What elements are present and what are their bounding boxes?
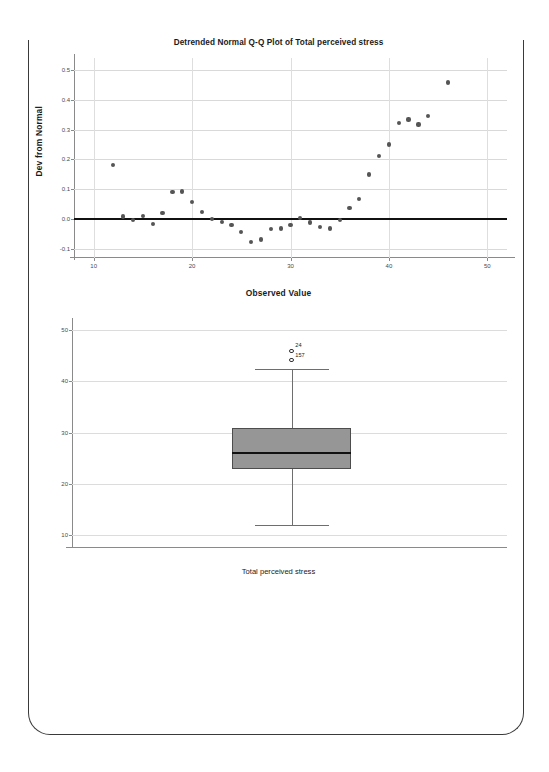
qq-y-tick-mark bbox=[71, 249, 74, 250]
qq-data-point bbox=[239, 230, 243, 234]
qq-data-point bbox=[170, 190, 174, 194]
qq-data-point bbox=[318, 225, 322, 229]
qq-x-tick-label: 10 bbox=[90, 263, 97, 269]
qq-x-axis-line bbox=[70, 257, 515, 258]
qq-x-tick-mark bbox=[487, 258, 488, 261]
boxplot-plot-area: 102030405024157 bbox=[72, 320, 507, 548]
boxplot-y-tick-label: 10 bbox=[61, 532, 68, 538]
qq-reference-line bbox=[74, 218, 507, 220]
qq-data-point bbox=[220, 220, 224, 224]
qq-y-tick-label: 0.1 bbox=[62, 186, 70, 192]
qq-data-point bbox=[131, 218, 135, 222]
qq-data-point bbox=[406, 117, 410, 121]
boxplot-y-tick-label: 30 bbox=[61, 430, 68, 436]
qq-y-tick-label: 0.5 bbox=[62, 67, 70, 73]
boxplot-outlier-point bbox=[289, 349, 293, 353]
boxplot-outlier-point bbox=[289, 358, 293, 362]
boxplot-y-tick-mark bbox=[69, 330, 72, 331]
qq-y-tick-label: 0.4 bbox=[62, 97, 70, 103]
boxplot-x-axis-label: Total perceived stress bbox=[36, 567, 521, 576]
boxplot-x-axis-line bbox=[66, 547, 507, 548]
boxplot-y-tick-label: 40 bbox=[61, 378, 68, 384]
qq-x-tick-label: 30 bbox=[287, 263, 294, 269]
qq-data-point bbox=[229, 223, 233, 227]
qq-x-tick-label: 20 bbox=[189, 263, 196, 269]
qq-data-point bbox=[180, 189, 184, 193]
qq-y-tick-mark bbox=[71, 159, 74, 160]
qq-y-tick-mark bbox=[71, 100, 74, 101]
qq-data-point bbox=[377, 154, 381, 158]
qq-data-point bbox=[387, 142, 391, 146]
qq-x-axis-label: Observed Value bbox=[36, 288, 521, 298]
qq-data-point bbox=[160, 211, 164, 215]
qq-x-tick-label: 40 bbox=[386, 263, 393, 269]
boxplot-y-tick-mark bbox=[69, 535, 72, 536]
qq-y-tick-mark bbox=[71, 130, 74, 131]
qq-data-point bbox=[397, 121, 401, 125]
boxplot-box bbox=[232, 428, 352, 469]
qq-chart-title: Detrended Normal Q-Q Plot of Total perce… bbox=[36, 38, 521, 47]
qq-data-point bbox=[338, 218, 342, 222]
qq-x-tick-mark bbox=[389, 258, 390, 261]
qq-data-point bbox=[190, 200, 194, 204]
qq-gridline-vertical bbox=[94, 58, 95, 258]
qq-gridline-vertical bbox=[389, 58, 390, 258]
detrended-qq-chart: Detrended Normal Q-Q Plot of Total perce… bbox=[36, 36, 521, 298]
qq-plot-area: -0.10.00.10.20.30.40.51020304050 bbox=[74, 58, 507, 258]
boxplot-gridline-horizontal bbox=[72, 330, 507, 331]
qq-x-tick-label: 50 bbox=[484, 263, 491, 269]
qq-data-point bbox=[308, 220, 312, 224]
qq-data-point bbox=[416, 122, 420, 126]
qq-data-point bbox=[367, 172, 371, 176]
qq-y-axis-label: Dev from Normal bbox=[34, 106, 48, 176]
qq-x-tick-mark bbox=[94, 258, 95, 261]
qq-y-tick-mark bbox=[71, 70, 74, 71]
qq-data-point bbox=[269, 227, 273, 231]
boxplot-gridline-horizontal bbox=[72, 381, 507, 382]
boxplot-y-tick-mark bbox=[69, 381, 72, 382]
qq-data-point bbox=[426, 114, 430, 118]
qq-x-tick-mark bbox=[291, 258, 292, 261]
boxplot-lower-whisker-cap bbox=[255, 525, 329, 526]
qq-y-tick-label: 0.3 bbox=[62, 127, 70, 133]
boxplot-outlier-label: 24 bbox=[295, 342, 301, 348]
boxplot-upper-whisker-cap bbox=[255, 369, 329, 370]
qq-data-point bbox=[111, 163, 115, 167]
boxplot-lower-whisker-line bbox=[292, 469, 293, 525]
boxplot-gridline-horizontal bbox=[72, 484, 507, 485]
qq-y-tick-label: -0.1 bbox=[60, 246, 70, 252]
qq-data-point bbox=[357, 197, 361, 201]
qq-data-point bbox=[347, 206, 351, 210]
boxplot-outlier-label: 157 bbox=[295, 352, 304, 358]
boxplot-y-tick-mark bbox=[69, 484, 72, 485]
boxplot-upper-whisker-line bbox=[292, 369, 293, 428]
boxplot-median-line bbox=[232, 452, 352, 454]
qq-gridline-vertical bbox=[487, 58, 488, 258]
qq-gridline-vertical bbox=[192, 58, 193, 258]
qq-y-tick-label: 0.0 bbox=[62, 216, 70, 222]
qq-data-point bbox=[151, 222, 155, 226]
qq-data-point bbox=[328, 226, 332, 230]
qq-data-point bbox=[279, 226, 283, 230]
qq-data-point bbox=[446, 80, 450, 84]
boxplot-gridline-horizontal bbox=[72, 535, 507, 536]
qq-gridline-vertical bbox=[291, 58, 292, 258]
qq-x-tick-mark bbox=[192, 258, 193, 261]
qq-data-point bbox=[200, 210, 204, 214]
qq-y-axis-line bbox=[74, 54, 75, 260]
qq-data-point bbox=[121, 214, 125, 218]
boxplot-y-tick-label: 20 bbox=[61, 481, 68, 487]
boxplot-chart: 102030405024157 Total perceived stress bbox=[36, 310, 521, 578]
qq-data-point bbox=[288, 223, 292, 227]
qq-data-point bbox=[210, 217, 214, 221]
qq-data-point bbox=[259, 237, 263, 241]
qq-y-tick-label: 0.2 bbox=[62, 156, 70, 162]
boxplot-y-tick-mark bbox=[69, 433, 72, 434]
qq-data-point bbox=[249, 240, 253, 244]
boxplot-y-tick-label: 50 bbox=[61, 327, 68, 333]
qq-y-tick-mark bbox=[71, 189, 74, 190]
